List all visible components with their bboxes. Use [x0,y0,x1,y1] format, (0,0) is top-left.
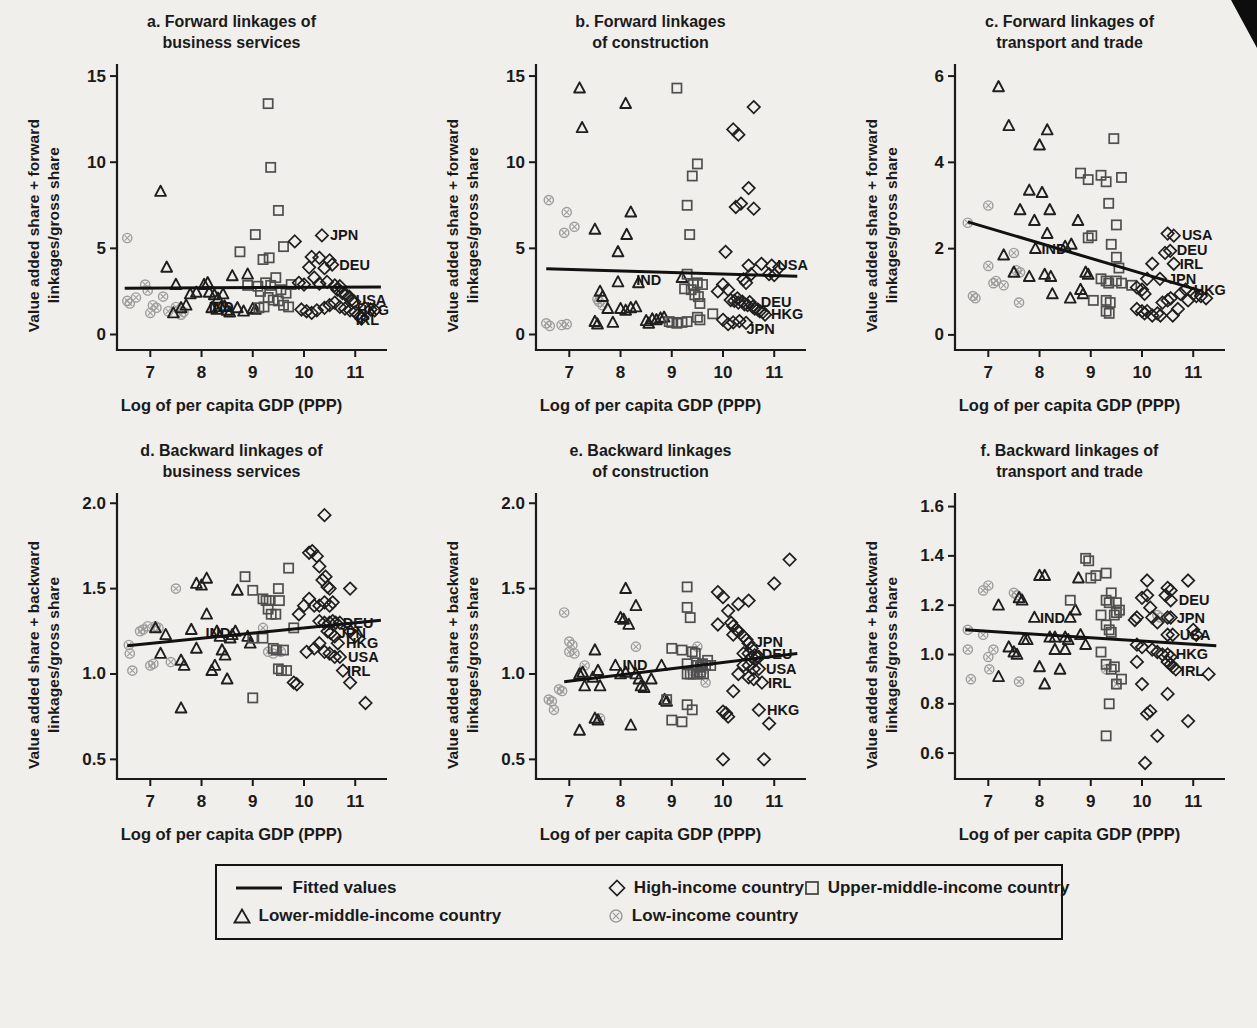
panel-e-x-axis-label: Log of per capita GDP (PPP) [540,825,762,844]
svg-text:9: 9 [667,363,676,382]
svg-text:8: 8 [196,792,205,811]
svg-text:8: 8 [615,363,624,382]
svg-text:10: 10 [1132,363,1151,382]
svg-text:0.6: 0.6 [920,744,944,763]
svg-text:9: 9 [1086,792,1095,811]
svg-text:0.8: 0.8 [920,694,944,713]
panel-b-y-axis-label: Value added share + forward linkages/gro… [443,119,483,332]
svg-text:10: 10 [713,363,732,382]
legend-item-lower-middle-income: Lower-middle-income country [233,906,608,926]
svg-text:IRL: IRL [768,675,792,691]
panel-f-x-axis-label: Log of per capita GDP (PPP) [959,825,1181,844]
svg-text:4: 4 [934,153,944,172]
panel-a-x-axis-label: Log of per capita GDP (PPP) [121,396,343,415]
scatter-plot-f: 78910110.60.81.01.21.41.6INDDEUJPNUSAHKG… [903,487,1233,823]
figure: a. Forward linkages of business services… [0,0,1257,844]
svg-text:1.4: 1.4 [920,546,944,565]
panel-f: f. Backward linkages of transport and tr… [838,441,1257,844]
svg-text:11: 11 [765,363,783,382]
panel-b-title: b. Forward linkages of construction [575,12,725,58]
scatter-plot-b: 7891011051015INDUSADEUHKGJPN [484,58,814,394]
panel-d-title: d. Backward linkages of business service… [140,441,322,487]
svg-text:HKG: HKG [767,702,799,718]
legend-item-fitted-values: Fitted values [233,878,608,898]
svg-text:5: 5 [515,239,524,258]
svg-text:1.2: 1.2 [920,596,944,615]
svg-text:JPN: JPN [746,321,774,337]
panel-d: d. Backward linkages of business service… [0,441,419,844]
legend-box: Fitted values High-income country Upper-… [215,864,1063,940]
svg-text:7: 7 [145,363,154,382]
panel-e: e. Backward linkages of construction Val… [419,441,838,844]
svg-text:HKG: HKG [1193,282,1225,298]
panel-f-y-axis-label: Value added share + backward linkages/gr… [862,541,902,769]
panel-f-title: f. Backward linkages of transport and tr… [981,441,1159,487]
scatter-plot-d: 78910110.51.01.52.0INDDEUJPNHKGUSAIRL [65,487,395,823]
svg-text:DEU: DEU [1178,592,1209,608]
svg-text:9: 9 [1086,363,1095,382]
panel-e-title: e. Backward linkages of construction [570,441,732,487]
panel-a-y-axis-label: Value added share + forward linkages/gro… [24,119,64,332]
svg-text:11: 11 [1184,792,1202,811]
svg-text:HKG: HKG [771,306,803,322]
legend-item-high-income: High-income country [608,878,804,898]
svg-text:1.0: 1.0 [82,664,106,683]
legend-label: Low-income country [632,906,798,926]
legend-item-upper-middle-income: Upper-middle-income country [804,878,1049,898]
svg-text:2.0: 2.0 [501,494,525,513]
panel-b-x-axis-label: Log of per capita GDP (PPP) [540,396,762,415]
svg-text:8: 8 [1034,363,1043,382]
panel-c-y-axis-label: Value added share + forward linkages/gro… [862,119,902,332]
svg-text:7: 7 [145,792,154,811]
svg-text:1.5: 1.5 [82,579,106,598]
fitted-line-icon [233,882,285,894]
scatter-plot-c: 78910110246INDUSADEUIRLJPNHKG [903,58,1233,394]
panel-a-title: a. Forward linkages of business services [147,12,316,58]
square-icon [804,880,820,896]
scatter-plot-a: 7891011051015JPNDEUINDUSAHKGIRL [65,58,395,394]
svg-text:9: 9 [248,363,257,382]
svg-text:7: 7 [564,363,573,382]
legend-label: Lower-middle-income country [259,906,502,926]
svg-text:USA: USA [1182,227,1213,243]
svg-text:0: 0 [934,325,943,344]
svg-text:9: 9 [248,792,257,811]
svg-text:HKG: HKG [1175,646,1207,662]
svg-text:IND: IND [208,299,233,315]
svg-text:IND: IND [205,625,230,641]
panel-c-title: c. Forward linkages of transport and tra… [985,12,1154,58]
legend-item-low-income: Low-income country [608,906,804,926]
svg-text:1.0: 1.0 [501,664,525,683]
svg-text:15: 15 [87,67,106,86]
svg-text:JPN: JPN [330,227,358,243]
svg-text:10: 10 [294,792,313,811]
svg-text:11: 11 [1184,363,1202,382]
svg-text:0.5: 0.5 [501,750,525,769]
svg-text:10: 10 [294,363,313,382]
svg-text:8: 8 [615,792,624,811]
panel-d-y-axis-label: Value added share + backward linkages/gr… [24,541,64,769]
svg-text:11: 11 [346,363,364,382]
svg-text:5: 5 [96,239,105,258]
svg-text:7: 7 [983,363,992,382]
legend-label: Upper-middle-income country [828,878,1070,898]
svg-text:2.0: 2.0 [82,494,106,513]
svg-text:7: 7 [983,792,992,811]
svg-text:IRL: IRL [355,312,379,328]
svg-text:JPN: JPN [1168,271,1196,287]
svg-text:7: 7 [564,792,573,811]
svg-text:11: 11 [346,792,364,811]
svg-text:DEU: DEU [339,257,370,273]
svg-text:0: 0 [515,325,524,344]
diamond-icon [608,879,626,897]
svg-text:1.5: 1.5 [501,579,525,598]
svg-text:8: 8 [1034,792,1043,811]
panel-c: c. Forward linkages of transport and tra… [838,12,1257,415]
svg-text:IRL: IRL [1181,663,1205,679]
svg-text:USA: USA [1179,627,1210,643]
svg-text:IRL: IRL [347,663,371,679]
svg-text:1.6: 1.6 [920,497,944,516]
svg-text:IND: IND [636,272,661,288]
svg-text:IRL: IRL [1179,256,1203,272]
svg-text:10: 10 [506,153,525,172]
